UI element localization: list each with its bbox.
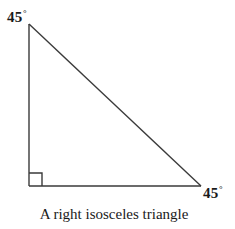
triangle-hypotenuse bbox=[29, 24, 201, 186]
angle-label-top: 45° bbox=[7, 9, 27, 25]
angle-label-top-value: 45 bbox=[7, 9, 22, 25]
degree-symbol-icon: ° bbox=[219, 184, 223, 194]
figure-caption: A right isosceles triangle bbox=[0, 205, 228, 223]
angle-label-bottom-right: 45° bbox=[203, 185, 223, 201]
angle-label-bottom-right-value: 45 bbox=[203, 185, 218, 201]
degree-symbol-icon: ° bbox=[23, 8, 27, 18]
right-angle-marker-icon bbox=[29, 173, 42, 186]
triangle-drawing bbox=[0, 0, 235, 229]
triangle-figure: 45° 45° A right isosceles triangle bbox=[0, 0, 235, 229]
